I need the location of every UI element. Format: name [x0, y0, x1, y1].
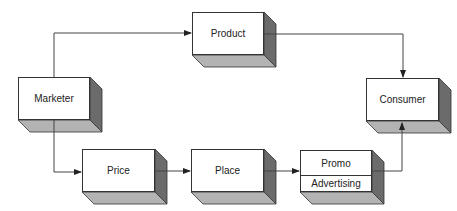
- node-sublabel: Advertising: [311, 178, 360, 189]
- node-label: Product: [211, 28, 245, 39]
- node-marketer: Marketer: [18, 77, 90, 120]
- node-label: Consumer: [379, 94, 425, 105]
- node-label: Price: [107, 165, 130, 176]
- node-label: Place: [215, 165, 240, 176]
- node-promo: Promo Advertising: [300, 150, 372, 192]
- node-price: Price: [82, 149, 155, 192]
- node-consumer: Consumer: [366, 78, 439, 121]
- node-product: Product: [192, 12, 264, 55]
- edge-marketer-product: [54, 33, 191, 77]
- node-place: Place: [191, 149, 264, 192]
- node-label: Marketer: [34, 93, 73, 104]
- node-label: Promo: [321, 158, 350, 169]
- edge-product-consumer: [264, 34, 403, 77]
